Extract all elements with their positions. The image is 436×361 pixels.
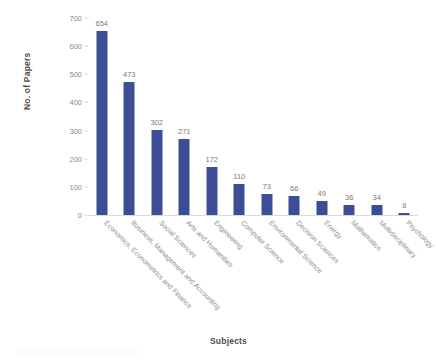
y-axis-tick-label: 600	[58, 42, 82, 51]
bar-group: 73	[253, 18, 281, 215]
bar-value-label: 66	[290, 184, 298, 193]
x-axis-title: Subjects	[0, 336, 431, 346]
bar-value-label: 271	[178, 127, 191, 136]
bar-group: 66	[281, 18, 309, 215]
y-axis-tick-label: 300	[58, 126, 82, 135]
bar[interactable]	[399, 213, 410, 215]
bar[interactable]	[124, 82, 135, 215]
bar-value-label: 36	[345, 193, 353, 202]
bar-group: 654	[88, 18, 116, 215]
x-axis-category-labels: Economics, Econometrics and FinanceBusin…	[88, 219, 418, 319]
x-axis-category-label: Environmental Science	[268, 219, 324, 275]
y-axis-tick-label: 0	[58, 211, 82, 220]
y-axis-title: No. of Papers	[22, 20, 32, 110]
plot-area: 0100200300400500600700 65447330227117211…	[88, 18, 418, 218]
x-axis-category-label: Energy	[323, 219, 344, 240]
bar[interactable]	[179, 139, 190, 215]
y-axis-tick-label: 200	[58, 154, 82, 163]
x-axis-category-label: Psychology	[405, 219, 435, 249]
x-axis-category-label: Arts and Humanities	[185, 219, 235, 269]
bar-group: 8	[391, 18, 419, 215]
bar[interactable]	[96, 31, 107, 215]
bar-value-label: 8	[402, 201, 406, 210]
y-axis-tick-label: 100	[58, 182, 82, 191]
bar[interactable]	[206, 167, 217, 215]
bar-group: 302	[143, 18, 171, 215]
bar-value-label: 473	[123, 70, 136, 79]
bar-series: 65447330227117211073664936348	[88, 18, 418, 215]
bar-value-label: 49	[318, 189, 326, 198]
bar[interactable]	[289, 196, 300, 215]
bar-value-label: 73	[263, 182, 271, 191]
bar-value-label: 302	[150, 118, 163, 127]
bar[interactable]	[261, 194, 272, 215]
bar-group: 36	[336, 18, 364, 215]
page-artifact	[18, 350, 138, 355]
bar-group: 34	[363, 18, 391, 215]
bar[interactable]	[371, 205, 382, 215]
bar[interactable]	[344, 205, 355, 215]
bar-value-label: 34	[373, 193, 381, 202]
bar-group: 473	[116, 18, 144, 215]
bar-group: 172	[198, 18, 226, 215]
x-axis-title-text: Subjects	[184, 336, 247, 346]
bar-group: 49	[308, 18, 336, 215]
bar[interactable]	[316, 201, 327, 215]
y-axis-tick-label: 400	[58, 98, 82, 107]
bar-value-label: 110	[233, 172, 245, 181]
bar-group: 271	[171, 18, 199, 215]
bar-value-label: 654	[95, 19, 108, 28]
bar[interactable]	[151, 130, 162, 215]
bar-group: 110	[226, 18, 254, 215]
y-axis-tick-label: 700	[58, 14, 82, 23]
y-axis-tick-label: 500	[58, 70, 82, 79]
x-axis-line	[88, 215, 418, 216]
bar[interactable]	[234, 184, 245, 215]
bar-value-label: 172	[205, 155, 218, 164]
